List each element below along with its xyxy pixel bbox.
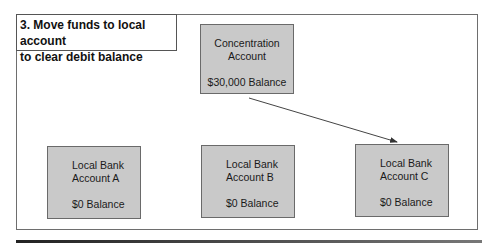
bottom-rule	[16, 240, 482, 243]
arrow-line	[249, 98, 397, 142]
transfer-arrow	[0, 0, 494, 244]
